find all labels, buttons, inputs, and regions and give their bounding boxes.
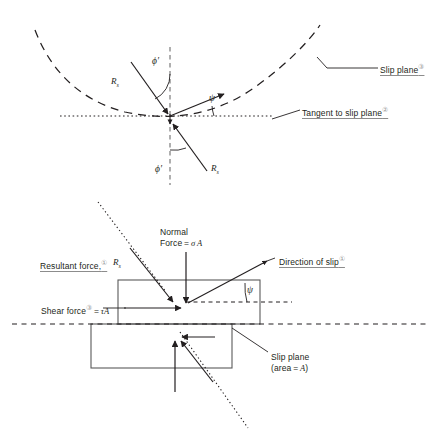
- upper-phi-symbol: ϕ′: [152, 56, 159, 66]
- slip-plane-area-leader: [232, 328, 268, 352]
- upper-resultant-arrow: [131, 62, 168, 114]
- diagram-vector-layer: [0, 0, 440, 444]
- lower-resultant-symbol: Rs: [211, 163, 219, 175]
- tangent-marker: ②: [382, 106, 388, 113]
- slip-plane-area-label-line2: (area = A): [271, 363, 308, 374]
- reaction-resultant-arrow: [181, 341, 213, 382]
- lower-phi-angle-arc: [170, 148, 186, 150]
- slip-plane-leader: [317, 57, 378, 68]
- upper-psi-angle-arc: [212, 106, 214, 116]
- direction-of-slip-label: Direction of slip①: [279, 254, 345, 267]
- resultant-force-marker: ①: [101, 259, 107, 266]
- resultant-force-symbol: Rs: [113, 257, 121, 269]
- resultant-force-label: Resultant force,①: [40, 258, 107, 271]
- slip-plane-curve: [35, 25, 320, 116]
- upper-resultant-dotted-line: [98, 202, 166, 292]
- figure-canvas: Slip plane③ Tangent to slip plane② ϕ′ Rs…: [0, 0, 440, 444]
- normal-force-label-line1: Normal: [160, 227, 188, 238]
- direction-of-slip-arrow: [188, 261, 267, 303]
- lower-resultant-arrow: [173, 124, 207, 171]
- shear-force-label: Shear force③ = τA: [41, 303, 109, 316]
- normal-force-label-line2: Force = σ A: [160, 238, 202, 249]
- tangent-to-slip-plane-label: Tangent to slip plane②: [302, 105, 388, 118]
- lower-psi-symbol: ψ: [247, 285, 253, 295]
- upper-resultant-symbol: Rs: [111, 76, 119, 88]
- lower-block: [91, 324, 232, 368]
- slip-plane-marker: ③: [418, 63, 424, 70]
- lower-phi-symbol: ϕ′: [155, 164, 162, 174]
- direction-of-slip-leader: [267, 258, 275, 261]
- direction-of-slip-marker: ①: [339, 255, 345, 262]
- slip-plane-label: Slip plane③: [380, 62, 424, 75]
- resultant-force-arrow: [130, 248, 173, 302]
- upper-phi-angle-arc: [155, 74, 170, 99]
- slip-plane-area-label-line1: Slip plane: [271, 352, 309, 363]
- lower-resultant-dotted-line: [180, 332, 248, 428]
- tangent-leader: [272, 110, 300, 119]
- upper-psi-symbol: ψ: [209, 93, 215, 103]
